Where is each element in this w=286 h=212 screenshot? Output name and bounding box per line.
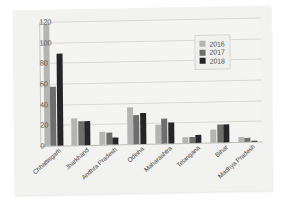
- legend-swatch-icon: [200, 58, 206, 64]
- legend-item-label: 2018: [210, 57, 225, 64]
- bar: [155, 125, 161, 144]
- chart-plate: 020406080100120 ChhattisgarhJharkhandAnd…: [13, 5, 273, 195]
- bar: [245, 138, 251, 142]
- bar: [238, 137, 244, 142]
- bar: [210, 129, 216, 143]
- bar: [251, 141, 257, 142]
- bar-group: [67, 21, 96, 146]
- bar: [99, 131, 105, 145]
- x-axis-label: Chhattisgarh: [31, 147, 62, 176]
- x-axis-label: Telangana: [175, 144, 201, 168]
- bar-group: [95, 20, 124, 145]
- bar: [127, 107, 133, 144]
- bar: [78, 121, 84, 145]
- bar: [56, 54, 63, 146]
- bar: [161, 119, 167, 144]
- bar: [71, 118, 77, 145]
- bar: [140, 113, 146, 144]
- bar: [168, 123, 174, 144]
- bar: [183, 137, 189, 143]
- chart-legend: 201620172018: [194, 34, 231, 70]
- bar: [50, 87, 57, 146]
- legend-item: 2017: [200, 48, 225, 56]
- bar: [113, 137, 119, 144]
- x-axis-labels: ChhattisgarhJharkhandAndhra PradeshOdish…: [40, 143, 262, 193]
- bar: [196, 135, 202, 143]
- x-axis-label: Odisha: [126, 145, 145, 163]
- bar: [85, 121, 91, 145]
- bar-group: [122, 20, 151, 145]
- bar: [189, 137, 195, 143]
- bar-group: [150, 19, 179, 144]
- legend-item: 2016: [199, 40, 224, 48]
- bar: [223, 125, 229, 143]
- bars-layer: [39, 18, 261, 22]
- bar-group: [233, 18, 262, 143]
- x-axis-label: Bihar: [213, 143, 228, 158]
- bar: [133, 115, 139, 144]
- legend-swatch-icon: [199, 41, 205, 47]
- bar: [106, 132, 112, 145]
- bar-chart-figure: 020406080100120 ChhattisgarhJharkhandAnd…: [0, 0, 286, 212]
- x-axis-label: Maharashtra: [143, 144, 174, 173]
- legend-item: 2018: [200, 57, 225, 65]
- legend-item-label: 2017: [210, 48, 225, 55]
- x-axis-label: Jharkhand: [64, 146, 90, 171]
- legend-swatch-icon: [200, 49, 206, 55]
- legend-item-label: 2016: [209, 40, 224, 47]
- bar: [217, 125, 223, 143]
- y-axis-ticks: 020406080100120: [13, 5, 271, 10]
